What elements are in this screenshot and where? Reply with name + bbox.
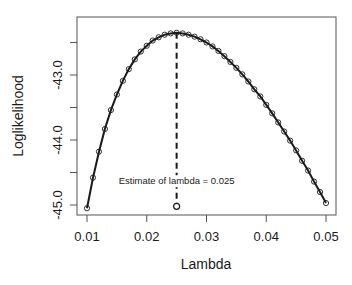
x-axis: 0.010.020.030.040.05: [74, 215, 338, 244]
x-tick-label: 0.05: [313, 229, 338, 244]
x-tick-label: 0.02: [134, 229, 159, 244]
x-tick-label: 0.03: [194, 229, 219, 244]
x-tick-label: 0.04: [254, 229, 279, 244]
loglikelihood-chart: 0.010.020.030.040.05 -43.0-44.0-45.0 Est…: [0, 0, 352, 285]
y-axis: -43.0-44.0-45.0: [50, 43, 77, 220]
estimate-marker: [174, 203, 180, 209]
annotations: Estimate of lambda = 0.025: [111, 33, 243, 210]
y-axis-title: Loglikelihood: [10, 75, 26, 157]
y-tick-label: -44.0: [50, 125, 65, 155]
y-tick-label: -45.0: [50, 190, 65, 220]
x-tick-label: 0.01: [74, 229, 99, 244]
estimate-label: Estimate of lambda = 0.025: [119, 175, 235, 186]
x-axis-title: Lambda: [181, 256, 232, 272]
y-tick-label: -43.0: [50, 60, 65, 90]
